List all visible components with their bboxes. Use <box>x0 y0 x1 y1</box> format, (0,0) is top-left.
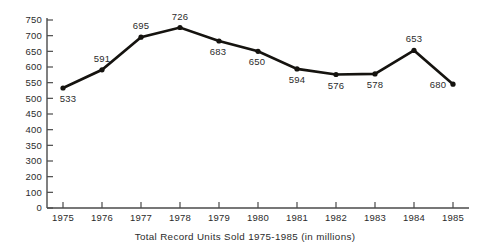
chart-caption: Total Record Units Sold 1975-1985 (in mi… <box>135 231 356 242</box>
data-point-label: 653 <box>406 33 422 44</box>
y-axis-tick-label: 650 <box>26 46 42 57</box>
data-point-marker <box>138 35 143 40</box>
y-axis-tick-label: 300 <box>26 155 42 166</box>
data-point-label: 650 <box>249 56 265 67</box>
data-point-marker <box>450 82 455 87</box>
data-point-marker <box>177 25 182 30</box>
x-axis-tick-label: 1975 <box>52 212 74 223</box>
data-point-label: 695 <box>133 20 149 31</box>
y-axis-tick-label: 500 <box>26 93 42 104</box>
y-axis-tick-label: 550 <box>26 77 42 88</box>
x-axis-tick-label: 1981 <box>286 212 308 223</box>
data-point-marker <box>60 85 65 90</box>
y-axis: 7507006506005505004504003503002001000 <box>26 14 53 213</box>
data-point-marker <box>333 72 338 77</box>
y-axis-tick-label: 400 <box>26 124 42 135</box>
x-axis-tick-label: 1982 <box>325 212 347 223</box>
data-point-label: 726 <box>172 11 188 22</box>
x-axis-tick-label: 1985 <box>442 212 464 223</box>
data-point-label: 680 <box>430 79 446 90</box>
data-point-marker <box>99 67 104 72</box>
data-point-label: 578 <box>367 79 383 90</box>
y-axis-tick-label: 200 <box>26 171 42 182</box>
data-point-marker <box>294 66 299 71</box>
data-point-marker <box>372 71 377 76</box>
y-axis-tick-label: 700 <box>26 30 42 41</box>
x-axis-tick-label: 1978 <box>169 212 191 223</box>
y-axis-tick-label: 0 <box>37 202 42 213</box>
x-axis-tick-label: 1984 <box>403 212 425 223</box>
x-axis: 1975197619771978197919801981198219831984… <box>47 202 469 223</box>
x-axis-tick-label: 1980 <box>247 212 269 223</box>
data-point-marker <box>255 49 260 54</box>
x-axis-tick-label: 1979 <box>208 212 230 223</box>
chart-canvas: 7507006506005505004504003503002001000 19… <box>0 0 490 252</box>
y-axis-tick-label: 750 <box>26 14 42 25</box>
x-axis-tick-label: 1977 <box>130 212 152 223</box>
data-point-label: 591 <box>94 53 110 64</box>
y-axis-tick-label: 450 <box>26 108 42 119</box>
data-point-marker <box>411 48 416 53</box>
y-axis-tick-label: 100 <box>26 187 42 198</box>
line-chart-figure: 7507006506005505004504003503002001000 19… <box>0 0 490 252</box>
data-point-label: 683 <box>210 46 226 57</box>
x-axis-tick-label: 1983 <box>364 212 386 223</box>
x-axis-tick-label: 1976 <box>91 212 113 223</box>
data-point-label: 533 <box>60 93 76 104</box>
y-axis-tick-label: 600 <box>26 61 42 72</box>
data-point-label: 576 <box>328 80 344 91</box>
data-point-marker <box>216 38 221 43</box>
data-point-label: 594 <box>289 74 305 85</box>
y-axis-tick-label: 350 <box>26 140 42 151</box>
